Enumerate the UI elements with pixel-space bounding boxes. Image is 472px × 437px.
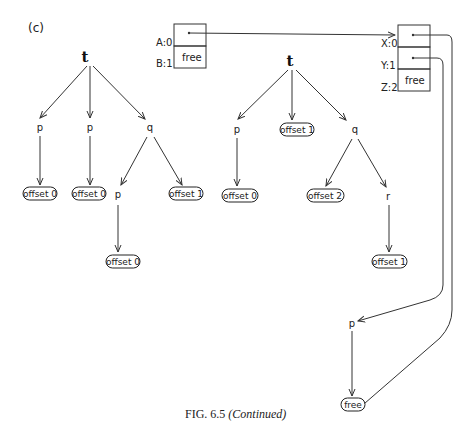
- left-node-q: q: [147, 122, 153, 133]
- middle-leaf-p: offset 0: [223, 191, 257, 201]
- slot-b-label: B:1: [156, 58, 173, 69]
- slot-z-label: Z:2: [381, 82, 398, 93]
- middle-node-p: p: [234, 124, 240, 135]
- diagram-canvas: (c) A:0 B:1 free X:0 Y:1 Z:2 free t p p …: [0, 0, 472, 437]
- slot-x-label: X:0: [381, 38, 398, 49]
- bottom-leaf-free: free: [344, 400, 362, 410]
- middle-root: t: [287, 52, 294, 70]
- left-leaf-2: offset 0: [72, 189, 106, 199]
- bottom-chain: p free: [341, 318, 365, 411]
- slot-y-label: Y:1: [380, 60, 396, 71]
- slot-x: [398, 25, 430, 47]
- pointer-a-to-x: [189, 33, 395, 35]
- left-node-p1: p: [37, 122, 43, 133]
- left-root: t: [82, 48, 89, 66]
- figure-caption: FIG. 6.5 (Continued): [185, 407, 286, 421]
- left-leaf-1: offset 0: [23, 189, 57, 199]
- slot-a-label: A:0: [156, 37, 172, 48]
- slot-b-content: free: [182, 52, 202, 63]
- frame-ab: A:0 B:1 free: [156, 24, 206, 69]
- bottom-node-p: p: [349, 318, 355, 329]
- middle-leaf-offset1: offset 1: [280, 125, 314, 135]
- middle-leaf-r: offset 1: [372, 257, 406, 267]
- left-node-p2: p: [87, 122, 93, 133]
- middle-node-q: q: [352, 124, 358, 135]
- panel-label: (c): [28, 21, 44, 35]
- middle-node-r: r: [386, 191, 391, 202]
- slot-z-content: free: [405, 75, 425, 86]
- left-leaf-4: offset 0: [106, 257, 140, 267]
- slot-a: [174, 24, 206, 46]
- left-node-qp: p: [115, 189, 121, 200]
- middle-leaf-offset2: offset 2: [308, 191, 342, 201]
- tree-middle: t p offset 1 q offset 0 offset 2 r offse…: [222, 52, 407, 268]
- pointer-y-to-p: [358, 58, 443, 321]
- left-leaf-3: offset 1: [169, 189, 203, 199]
- tree-left: t p p q offset 0 offset 0 p offset 1 off…: [23, 48, 203, 268]
